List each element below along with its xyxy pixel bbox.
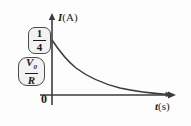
fraction-denominator: 4 <box>36 42 44 53</box>
y-axis-arrowhead <box>49 13 55 20</box>
fraction-numerator: 1 <box>36 28 44 39</box>
fraction-one-quarter: 1 4 <box>33 28 46 53</box>
callout-v0-over-r: V0 R <box>18 57 45 86</box>
x-axis-label: t(s) <box>155 100 170 112</box>
x-axis-unit: (s) <box>158 100 170 112</box>
fraction-numerator-v0: V0 <box>25 57 38 71</box>
y-axis-label: I(A) <box>58 11 78 23</box>
current-vs-time-figure: 1 4 V0 R I(A) t(s) 0 <box>0 0 191 126</box>
fraction-v0-over-r: V0 R <box>25 57 38 85</box>
y-axis-unit: (A) <box>62 11 77 23</box>
decay-curve <box>52 40 168 94</box>
callout-one-quarter: 1 4 <box>28 27 51 54</box>
fraction-denominator-r: R <box>27 75 36 86</box>
origin-label: 0 <box>41 92 47 107</box>
subscript-zero: 0 <box>33 64 37 72</box>
